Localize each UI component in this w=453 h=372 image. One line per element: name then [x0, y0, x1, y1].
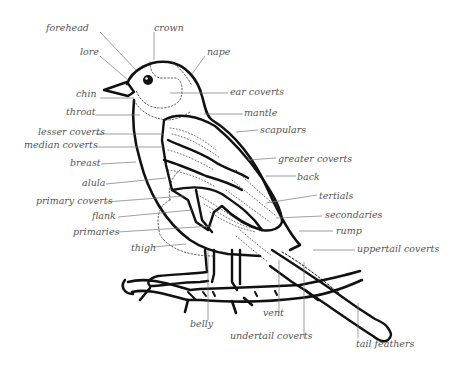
label-scapulars: scapulars	[260, 124, 306, 135]
label-vent: vent	[263, 307, 284, 318]
label-throat: throat	[66, 106, 96, 117]
label-chin: chin	[76, 88, 97, 99]
label-lore: lore	[80, 46, 99, 57]
label-breast: breast	[70, 157, 101, 168]
label-flank: flank	[92, 210, 116, 221]
label-rump: rump	[336, 225, 362, 236]
label-ear-coverts: ear coverts	[230, 86, 284, 97]
label-thigh: thigh	[131, 242, 156, 253]
label-tail-feathers: tail feathers	[356, 338, 414, 349]
label-primaries: primaries	[73, 226, 119, 237]
label-primary-coverts: primary coverts	[36, 195, 113, 206]
tail	[270, 250, 391, 341]
label-belly: belly	[190, 318, 213, 329]
label-nape: nape	[207, 46, 231, 57]
label-greater-coverts: greater coverts	[278, 153, 352, 164]
label-median-coverts: median coverts	[24, 139, 98, 150]
beak	[104, 82, 134, 96]
label-crown: crown	[154, 22, 184, 33]
label-alula: alula	[82, 177, 106, 188]
bird-anatomy-diagram: forehead crown nape lore chin throat ear…	[0, 0, 453, 372]
label-tertials: tertials	[319, 190, 353, 201]
label-forehead: forehead	[46, 22, 89, 33]
label-lesser-coverts: lesser coverts	[38, 126, 105, 137]
label-secondaries: secondaries	[325, 209, 382, 220]
label-back: back	[297, 171, 320, 182]
eye	[143, 75, 153, 85]
label-mantle: mantle	[244, 107, 277, 118]
branch	[123, 271, 362, 313]
label-undertail-coverts: undertail coverts	[230, 330, 312, 341]
legs	[148, 250, 240, 290]
label-uppertail-coverts: uppertail coverts	[357, 243, 439, 254]
